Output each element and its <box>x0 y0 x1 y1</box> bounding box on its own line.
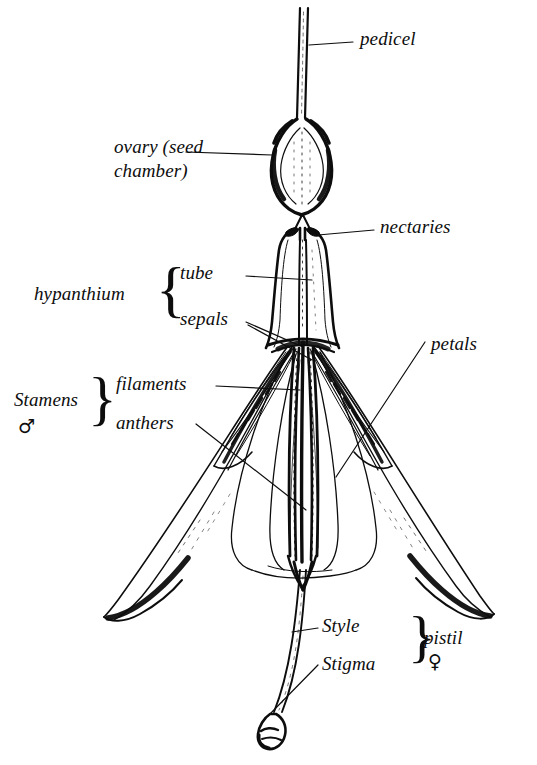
label-hypanthium: hypanthium <box>34 283 125 304</box>
label-petals: petals <box>431 333 477 354</box>
stigma-shape <box>258 714 286 749</box>
diagram-canvas: pedicel ovary (seed chamber) nectaries h… <box>0 0 537 765</box>
label-stigma: Stigma <box>322 653 375 674</box>
leader-pedicel <box>309 42 353 45</box>
label-style: Style <box>322 615 359 636</box>
stamens-shape <box>222 346 384 590</box>
label-tube: tube <box>180 262 213 283</box>
label-filaments: filaments <box>116 373 187 394</box>
label-ovary: ovary (seed <box>114 136 203 157</box>
label-pistil: pistil <box>424 627 463 648</box>
hypanthium-tube-shape <box>266 228 339 348</box>
nectaries-shape <box>286 215 319 240</box>
stamens-brace: } <box>88 368 117 428</box>
male-symbol: ♂ <box>18 415 35 437</box>
label-sepals: sepals <box>180 308 228 329</box>
ovary-shape <box>271 119 331 215</box>
label-ovary-line2: chamber) <box>114 160 188 181</box>
label-pedicel: pedicel <box>360 28 416 49</box>
leader-lines <box>186 42 425 716</box>
pistil-shape <box>258 570 306 749</box>
pedicel-shape <box>297 8 308 118</box>
label-anthers: anthers <box>116 412 174 433</box>
label-stamens: Stamens <box>14 389 78 410</box>
female-symbol: ♀ <box>428 650 442 672</box>
leader-style <box>292 628 318 632</box>
flower-illustration <box>0 0 537 765</box>
leader-nectaries <box>318 230 374 235</box>
label-nectaries: nectaries <box>380 216 451 237</box>
